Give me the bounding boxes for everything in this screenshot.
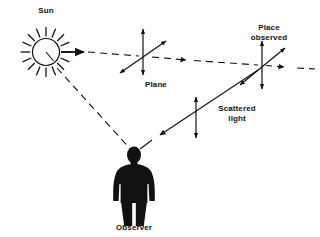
place-observed-label-line1: Place bbox=[258, 23, 279, 33]
place-observed-label-line2: observed bbox=[251, 33, 287, 43]
polarization-arrows-plane bbox=[120, 29, 166, 75]
incident-ray-plane-to-observed bbox=[152, 57, 258, 65]
polarization-arrows-place-observed bbox=[240, 41, 285, 89]
sun-label: Sun bbox=[38, 6, 53, 16]
incident-ray-to-plane bbox=[88, 52, 139, 56]
direct-ray-sun-to-observer bbox=[57, 68, 133, 152]
scattered-light-label-line2: light bbox=[228, 114, 245, 124]
observer-label: Observer bbox=[116, 223, 152, 233]
observer-icon bbox=[113, 147, 155, 226]
plane-label: Plane bbox=[145, 80, 167, 90]
scattered-light-label-line1: Scattered bbox=[218, 104, 255, 114]
incident-ray-exit bbox=[266, 66, 315, 70]
scattering-polarization-diagram: Sun Plane Place observed Scattered light… bbox=[0, 0, 320, 237]
